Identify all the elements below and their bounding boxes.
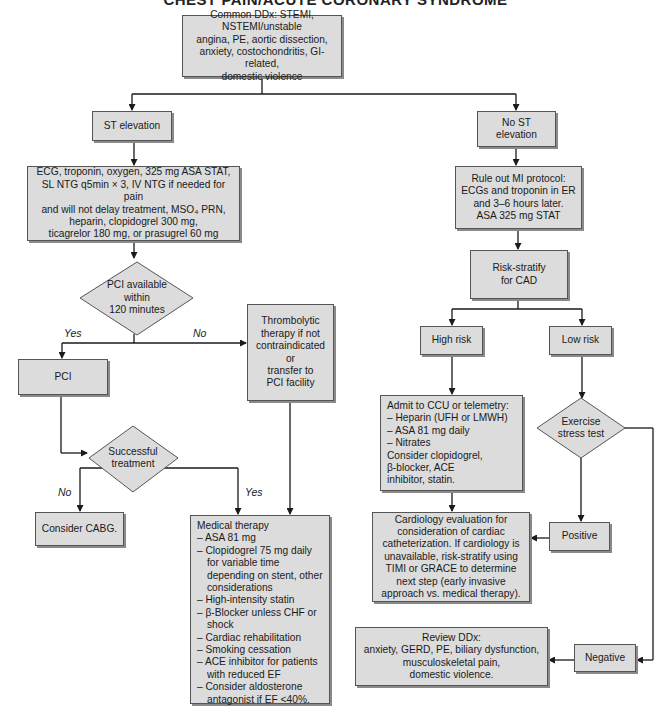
connector-lines	[0, 0, 671, 716]
pci-box: PCI	[18, 359, 108, 395]
list-item: – Consider aldosterone antagonist if EF …	[197, 681, 323, 706]
consider-cabg-box: Consider CABG.	[35, 512, 124, 546]
exercise-stress-text: Exercise stress test	[547, 410, 615, 446]
positive-box: Positive	[549, 522, 610, 551]
list-item: – Nitrates	[387, 437, 509, 449]
admit-heading: Admit to CCU or telemetry:	[387, 400, 509, 412]
success-yes-label: Yes	[245, 486, 263, 498]
negative-box: Negative	[574, 644, 636, 672]
list-item: – Clopidogrel 75 mg daily for variable t…	[197, 545, 323, 595]
list-item: – Smoking cessation	[197, 644, 323, 656]
list-item: – Cardiac rehabilitation	[197, 632, 323, 644]
st-workup-box: ECG, troponin, oxygen, 325 mg ASA STAT, …	[27, 166, 240, 241]
common-ddx-text: Common DDx: STEMI, NSTEMI/unstable angin…	[187, 9, 337, 83]
low-risk-box: Low risk	[549, 326, 612, 355]
thrombolytic-box: Thrombolytic therapy if not contraindica…	[247, 304, 334, 401]
list-item: – β-Blocker unless CHF or shock	[197, 607, 323, 632]
low-risk-text: Low risk	[562, 334, 599, 346]
pci-text: PCI	[55, 371, 72, 383]
list-item: – High-intensity statin	[197, 594, 323, 606]
rule-out-mi-box: Rule out MI protocol: ECGs and troponin …	[455, 166, 582, 229]
admit-footer: Consider clopidogrel, β-blocker, ACE inh…	[387, 450, 509, 487]
pci-yes-label: Yes	[64, 327, 82, 339]
consider-cabg-text: Consider CABG.	[42, 523, 117, 535]
list-item: – ASA 81 mg daily	[387, 425, 509, 437]
list-item: – ASA 81 mg	[197, 532, 323, 544]
admit-box: Admit to CCU or telemetry: – Heparin (UF…	[380, 395, 523, 491]
pci-no-label: No	[193, 327, 206, 339]
medical-therapy-box: Medical therapy – ASA 81 mg – Clopidogre…	[190, 515, 330, 704]
high-risk-text: High risk	[432, 334, 472, 346]
rule-out-mi-text: Rule out MI protocol: ECGs and troponin …	[461, 173, 575, 223]
pci-available-text: PCI available within 120 minutes	[90, 268, 184, 328]
st-elevation-box: ST elevation	[92, 111, 172, 141]
medical-therapy-heading: Medical therapy	[197, 520, 323, 532]
list-item: – ACE inhibitor for patients with reduce…	[197, 656, 323, 681]
risk-stratify-text: Risk-stratify for CAD	[492, 262, 545, 287]
thrombolytic-text: Thrombolytic therapy if not contraindica…	[256, 315, 325, 389]
cardiology-eval-text: Cardiology evaluation for consideration …	[381, 514, 520, 601]
st-elevation-text: ST elevation	[104, 120, 160, 132]
list-item: – Heparin (UFH or LMWH)	[387, 412, 509, 424]
high-risk-box: High risk	[420, 326, 483, 355]
review-ddx-box: Review DDx: anxiety, GERD, PE, biliary d…	[355, 627, 548, 686]
positive-text: Positive	[562, 530, 598, 542]
review-ddx-text: Review DDx: anxiety, GERD, PE, biliary d…	[364, 632, 539, 682]
medical-therapy-list: – ASA 81 mg – Clopidogrel 75 mg daily fo…	[197, 532, 323, 706]
success-no-label: No	[58, 486, 71, 498]
negative-text: Negative	[585, 652, 625, 664]
cardiology-eval-box: Cardiology evaluation for consideration …	[372, 512, 530, 602]
risk-stratify-box: Risk-stratify for CAD	[470, 250, 568, 299]
st-workup-text: ECG, troponin, oxygen, 325 mg ASA STAT, …	[32, 166, 235, 240]
no-st-elevation-text: No ST elevation	[496, 117, 537, 142]
no-st-elevation-box: No ST elevation	[477, 111, 556, 147]
successful-treatment-text: Successful treatment	[95, 440, 171, 476]
common-ddx-box: Common DDx: STEMI, NSTEMI/unstable angin…	[182, 15, 342, 77]
